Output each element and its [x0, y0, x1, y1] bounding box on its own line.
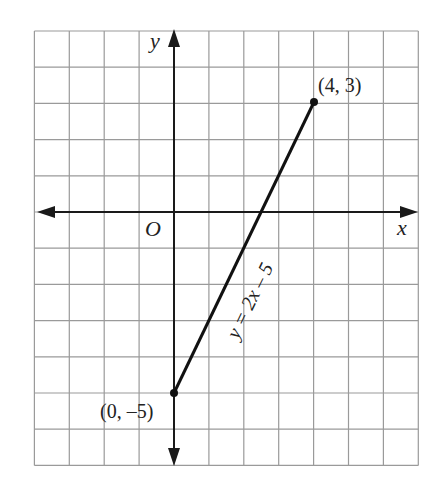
y-axis-down-arrow-icon	[168, 448, 180, 466]
origin-label: O	[145, 216, 161, 241]
point-0-neg5	[170, 389, 178, 397]
equation-label: y = 2x – 5	[221, 259, 278, 344]
point-0-neg5-label: (0, –5)	[100, 400, 153, 423]
y-axis-up-arrow-icon	[168, 29, 180, 47]
coordinate-plane: y x O (4, 3) (0, –5) y = 2x – 5	[0, 0, 434, 497]
x-axis-left-arrow-icon	[37, 206, 55, 218]
x-axis	[37, 206, 418, 218]
grid	[34, 31, 418, 465]
y-axis	[168, 29, 180, 466]
y-axis-label: y	[148, 28, 160, 53]
x-axis-label: x	[396, 215, 407, 240]
point-4-3-label: (4, 3)	[318, 74, 361, 97]
point-4-3	[310, 98, 318, 106]
